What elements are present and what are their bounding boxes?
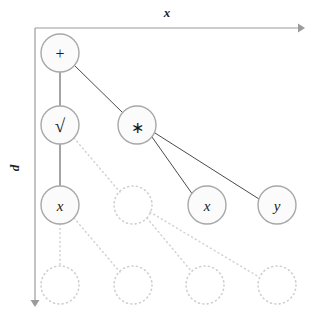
node-sqrt[interactable]: √ [41, 106, 79, 144]
ghost-edge-group [60, 138, 259, 277]
x-axis-arrowhead [298, 24, 305, 33]
solid-edge-group [60, 65, 259, 199]
y-axis-label: d [7, 164, 22, 171]
ghost-node-row3-col2[interactable] [186, 266, 224, 304]
ghost-edge-placeholder-to-placeholder-c2 [147, 218, 192, 272]
node-x-right-label: x [203, 198, 211, 214]
node-multiply[interactable]: ∗ [118, 106, 156, 144]
node-plus-label: + [55, 45, 64, 62]
x-axis-label: x [163, 5, 171, 20]
node-sqrt-label: √ [55, 115, 66, 136]
node-x-left[interactable]: x [41, 186, 79, 224]
ghost-node-row3-col1[interactable] [114, 266, 152, 304]
ghost-node-row3-col0[interactable] [41, 266, 79, 304]
ghost-node-row3-col3[interactable] [258, 266, 296, 304]
node-x-left-label: x [56, 198, 64, 214]
expression-tree-diagram: x d + [0, 0, 315, 320]
node-x-right[interactable]: x [188, 186, 226, 224]
node-y[interactable]: y [258, 186, 296, 224]
y-axis-arrowhead [31, 300, 40, 307]
ghost-edge-sqrt-to-placeholder [74, 138, 120, 192]
ghost-edge-xleft-to-placeholder-c1 [74, 218, 120, 272]
diagram-canvas: x d + [0, 0, 315, 320]
ghost-node-row2-col1[interactable] [114, 186, 152, 224]
edge-plus-to-multiply [74, 65, 123, 113]
node-multiply-label: ∗ [131, 119, 144, 136]
node-y-label: y [272, 198, 281, 214]
node-plus[interactable]: + [41, 34, 79, 72]
edge-multiply-to-x-right [152, 137, 193, 195]
